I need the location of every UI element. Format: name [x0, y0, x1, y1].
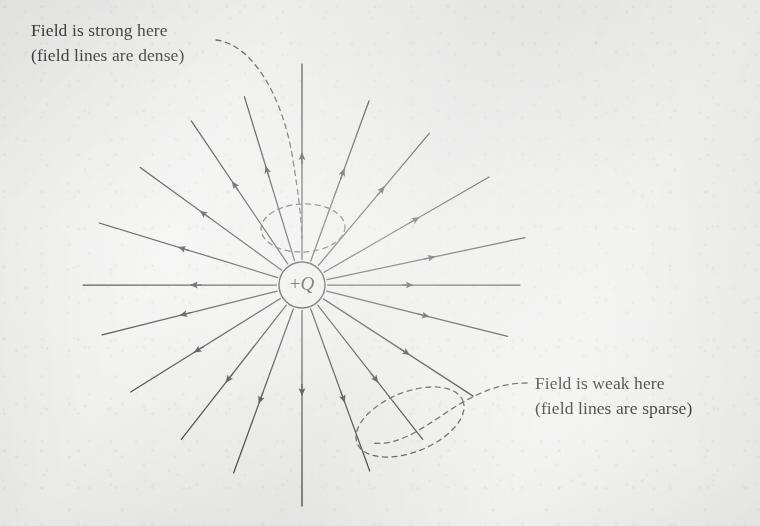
- field-direction-arrow: [259, 393, 263, 403]
- annotation-field-weak: Field is weak here (field lines are spar…: [535, 371, 692, 421]
- annotation-field-strong: Field is strong here (field lines are de…: [31, 18, 184, 68]
- dashed-highlight-dense-region: [260, 203, 346, 254]
- leader-line-strong: [216, 40, 302, 238]
- dashed-highlight-group: [260, 203, 474, 472]
- charge-sign: +: [290, 273, 301, 294]
- field-direction-arrow: [180, 313, 191, 316]
- field-line: [318, 133, 429, 265]
- leader-line-weak: [372, 383, 527, 443]
- figure-canvas: +Q Field is strong here (field lines are…: [0, 0, 760, 526]
- field-direction-arrow: [400, 349, 409, 355]
- field-direction-arrow: [200, 211, 209, 217]
- field-line: [131, 299, 281, 393]
- field-direction-arrow: [341, 392, 345, 402]
- field-direction-arrow: [409, 218, 419, 224]
- field-line: [323, 299, 473, 396]
- field-direction-arrow: [266, 166, 269, 177]
- field-direction-arrow: [418, 314, 429, 317]
- charge-label: +Q: [290, 273, 314, 295]
- field-line: [311, 101, 369, 261]
- field-direction-arrow: [377, 187, 384, 195]
- field-direction-arrow: [179, 247, 190, 250]
- field-line: [140, 167, 281, 270]
- annotation-strong-line1: Field is strong here: [31, 18, 184, 43]
- field-line: [324, 177, 489, 272]
- field-direction-arrow: [371, 374, 378, 383]
- field-direction-arrow: [424, 257, 435, 259]
- field-direction-arrow: [226, 374, 233, 383]
- field-direction-arrow: [194, 346, 203, 352]
- field-line: [327, 291, 508, 336]
- dashed-highlight-sparse-region: [346, 373, 474, 471]
- charge-symbol: Q: [300, 273, 314, 294]
- annotation-weak-line1: Field is weak here: [535, 371, 692, 396]
- annotation-weak-line2: (field lines are sparse): [535, 396, 692, 421]
- field-direction-arrow: [340, 169, 344, 179]
- annotation-strong-line2: (field lines are dense): [31, 43, 184, 68]
- field-line-drawing: [0, 0, 760, 526]
- field-direction-arrow: [232, 182, 238, 191]
